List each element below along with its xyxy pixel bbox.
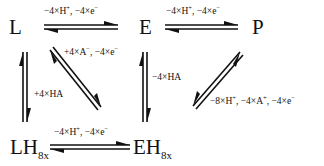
node-p: P bbox=[252, 17, 264, 38]
label-lh-eh: −4×H+, −4×e− bbox=[54, 128, 108, 138]
arrow-e-p bbox=[165, 21, 238, 33]
arrow-l-e bbox=[44, 21, 118, 33]
label-sup: − bbox=[94, 4, 98, 11]
node-lh8x-subscript: 8x bbox=[38, 149, 49, 161]
node-eh8x: EH8x bbox=[133, 137, 172, 158]
arrow-e-eh bbox=[139, 52, 151, 122]
label-sup: − bbox=[216, 4, 220, 11]
label-part: , −4×e bbox=[80, 127, 104, 137]
label-text: −4×HA bbox=[152, 72, 181, 82]
label-sup: + bbox=[66, 4, 70, 11]
label-text: +4×HA bbox=[34, 89, 63, 99]
node-eh8x-subscript: 8x bbox=[161, 149, 172, 161]
arrow-l-lh bbox=[19, 52, 31, 122]
label-part: +4×A bbox=[64, 47, 86, 57]
label-sup: + bbox=[76, 125, 80, 132]
label-part: −4×H bbox=[44, 6, 66, 16]
node-e: E bbox=[139, 17, 152, 38]
label-l-e: −4×H+, −4×e− bbox=[44, 7, 98, 17]
arrow-lh-eh bbox=[50, 141, 130, 153]
node-l: L bbox=[9, 17, 22, 38]
node-l-label: L bbox=[9, 15, 22, 39]
node-eh8x-label: EH bbox=[133, 135, 161, 159]
label-sup: − bbox=[114, 45, 118, 52]
label-e-eh: −4×HA bbox=[152, 73, 181, 83]
label-l-lh: +4×HA bbox=[34, 90, 63, 100]
node-p-label: P bbox=[252, 15, 264, 39]
label-l-eh: +4×A−, −4×e− bbox=[64, 48, 118, 58]
label-sup: + bbox=[263, 94, 267, 101]
label-part: , −4×e bbox=[267, 96, 291, 106]
label-sup: + bbox=[232, 94, 236, 101]
label-sup: − bbox=[104, 125, 108, 132]
label-part: −8×H bbox=[210, 96, 232, 106]
label-part: , −4×A bbox=[236, 96, 263, 106]
label-eh-p: −8×H+, −4×A+, −4×e− bbox=[210, 97, 295, 107]
label-sup: + bbox=[188, 4, 192, 11]
label-sup: − bbox=[291, 94, 295, 101]
label-part: −4×H bbox=[166, 6, 188, 16]
label-part: −4×H bbox=[54, 127, 76, 137]
node-e-label: E bbox=[139, 15, 152, 39]
node-lh8x-label: LH bbox=[10, 135, 38, 159]
label-part: , −4×e bbox=[192, 6, 216, 16]
label-part: , −4×e bbox=[90, 47, 114, 57]
label-sup: − bbox=[86, 45, 90, 52]
label-e-p: −4×H+, −4×e− bbox=[166, 7, 220, 17]
label-part: , −4×e bbox=[70, 6, 94, 16]
node-lh8x: LH8x bbox=[10, 137, 49, 158]
